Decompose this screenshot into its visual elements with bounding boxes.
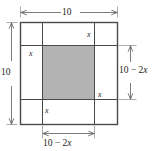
right-dimension-label: 10 − 2x bbox=[119, 66, 148, 76]
shaded-inner-rectangle bbox=[43, 46, 95, 100]
corner-width-label-right: x bbox=[98, 91, 102, 99]
bottom-dimension-variable: x bbox=[67, 138, 71, 148]
geometry-figure: 10 10 10 − 2x 10 − 2x x x x x bbox=[0, 0, 161, 151]
top-dimension-label: 10 bbox=[62, 8, 72, 18]
bottom-dimension-line bbox=[43, 126, 95, 139]
right-dimension-prefix: 10 − 2 bbox=[119, 65, 143, 75]
corner-width-label-left: x bbox=[29, 50, 33, 58]
bottom-dimension-prefix: 10 − 2 bbox=[43, 138, 67, 148]
bottom-dimension-label: 10 − 2x bbox=[43, 139, 72, 149]
left-dimension-label: 10 bbox=[1, 68, 11, 78]
right-dimension-variable: x bbox=[143, 65, 147, 75]
figure-canvas bbox=[0, 0, 161, 151]
corner-width-label-top: x bbox=[87, 31, 91, 39]
corner-width-label-bottom: x bbox=[45, 107, 49, 115]
